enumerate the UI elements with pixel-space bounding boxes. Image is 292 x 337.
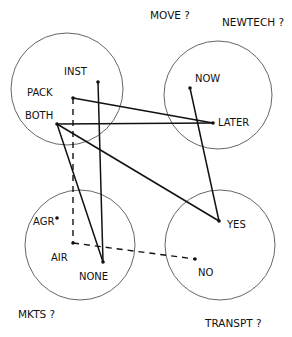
node-label-pack: PACK [27, 87, 53, 98]
node-dot-later [211, 121, 215, 125]
group-title: MOVE ? [150, 9, 190, 21]
node-label-inst: INST [64, 66, 88, 77]
edge-pack-later [73, 98, 213, 123]
group-circle [165, 190, 275, 300]
edge-both-yes [57, 124, 219, 221]
group-title: TRANSPT ? [204, 317, 262, 329]
node-label-air: AIR [51, 252, 68, 263]
group-mkts: MKTS ? [18, 190, 135, 320]
node-label-no: NO [198, 267, 213, 278]
node-dot-pack [71, 96, 75, 100]
node-label-agr: AGR [33, 216, 54, 227]
edge-both-none [57, 124, 103, 262]
node-dot-none [101, 260, 105, 264]
node-dot-now [188, 86, 192, 90]
option-graph: MOVE ?NEWTECH ?MKTS ?TRANSPT ?INSTPACKBO… [0, 0, 292, 337]
group-circle [164, 41, 272, 149]
node-dot-air [71, 241, 75, 245]
group-transpt: TRANSPT ? [165, 190, 275, 329]
group-title: MKTS ? [18, 308, 55, 320]
node-label-now: NOW [195, 73, 220, 84]
node-label-both: BOTH [25, 110, 53, 121]
node-dot-no [193, 257, 197, 261]
node-dot-agr [55, 216, 59, 220]
group-circle [25, 190, 135, 300]
group-move: MOVE ? [11, 9, 190, 145]
node-dot-both [55, 122, 59, 126]
edge-inst-none [98, 82, 103, 262]
node-dot-yes [217, 219, 221, 223]
group-newtech: NEWTECH ? [164, 16, 284, 149]
node-label-later: LATER [218, 117, 249, 128]
group-title: NEWTECH ? [222, 16, 284, 28]
node-label-yes: YES [226, 219, 246, 230]
edge-now-yes [190, 88, 219, 221]
node-label-none: NONE [79, 271, 108, 282]
edge-both-later [57, 123, 213, 124]
node-dot-inst [96, 80, 100, 84]
